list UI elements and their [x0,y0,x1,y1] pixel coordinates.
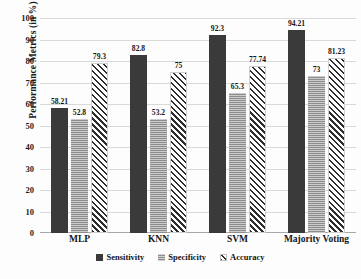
legend-item-specificity[interactable]: Specificity [158,252,206,262]
bar-group-bars: 58.2152.879.3 [40,18,119,233]
bar-column: 65.3 [229,18,246,233]
plot-area: 010203040506070809010058.2152.879.3MLP82… [40,18,356,233]
bar-group-bars: 82.853.275 [119,18,198,233]
bar-column: 92.3 [209,18,226,233]
y-axis-tick-label: 90 [8,36,34,44]
bar-specificity[interactable] [150,119,167,233]
y-axis-tick-label: 20 [8,186,34,194]
legend-item-accuracy[interactable]: Accuracy [220,252,264,262]
bar-column: 77.74 [249,18,266,233]
bar-column: 79.3 [91,18,108,233]
bar-value-label: 94.21 [288,19,305,28]
legend-label: Specificity [168,252,206,262]
legend-swatch-icon [158,254,165,261]
bar-value-label: 73 [313,65,321,74]
x-axis-category-label: KNN [119,234,198,244]
legend-item-sensitivity[interactable]: Sensitivity [96,252,144,262]
bar-value-label: 81.23 [328,47,345,56]
bar-specificity[interactable] [71,119,88,233]
bar-column: 73 [308,18,325,233]
bar-value-label: 92.3 [211,24,224,33]
bar-column: 52.8 [71,18,88,233]
legend-swatch-icon [96,254,103,261]
bar-value-label: 52.8 [73,108,86,117]
bar-chart: Performance Metrics (in %) 0102030405060… [0,0,361,279]
legend-swatch-icon [220,254,227,261]
y-axis-tick-label: 80 [8,57,34,65]
bar-accuracy[interactable] [328,58,345,233]
y-axis-tick-label: 100 [8,14,34,22]
y-axis-tick-label: 40 [8,143,34,151]
bar-sensitivity[interactable] [51,108,68,233]
legend-label: Accuracy [230,252,264,262]
bar-specificity[interactable] [308,76,325,233]
bar-value-label: 65.3 [231,82,244,91]
y-axis-tick-label: 60 [8,100,34,108]
bar-group: 58.2152.879.3MLP [40,18,119,233]
bar-sensitivity[interactable] [209,35,226,233]
bar-column: 81.23 [328,18,345,233]
bar-column: 75 [170,18,187,233]
bar-group-bars: 92.365.377.74 [198,18,277,233]
bar-accuracy[interactable] [249,66,266,233]
chart-legend: SensitivitySpecificityAccuracy [0,252,361,262]
bar-sensitivity[interactable] [130,55,147,233]
x-axis-category-label: Majority Voting [277,234,356,244]
bar-group-bars: 94.217381.23 [277,18,356,233]
bar-group: 92.365.377.74SVM [198,18,277,233]
y-axis-tick-label: 70 [8,79,34,87]
bar-value-label: 75 [175,61,183,70]
y-axis-tick-label: 50 [8,122,34,130]
bar-column: 94.21 [288,18,305,233]
bar-value-label: 79.3 [93,52,106,61]
bar-column: 82.8 [130,18,147,233]
bar-value-label: 58.21 [51,97,68,106]
bar-value-label: 82.8 [132,44,145,53]
y-axis-tick-label: 10 [8,208,34,216]
bar-value-label: 53.2 [152,108,165,117]
y-axis-tick-label: 0 [8,229,34,237]
bar-sensitivity[interactable] [288,30,305,233]
y-axis-tick-label: 30 [8,165,34,173]
bar-column: 53.2 [150,18,167,233]
bar-accuracy[interactable] [91,63,108,233]
bar-specificity[interactable] [229,93,246,233]
bar-accuracy[interactable] [170,72,187,233]
x-axis-category-label: MLP [40,234,119,244]
bar-group: 82.853.275KNN [119,18,198,233]
bar-group: 94.217381.23Majority Voting [277,18,356,233]
legend-label: Sensitivity [106,252,144,262]
x-axis-category-label: SVM [198,234,277,244]
bar-value-label: 77.74 [249,55,266,64]
bar-column: 58.21 [51,18,68,233]
